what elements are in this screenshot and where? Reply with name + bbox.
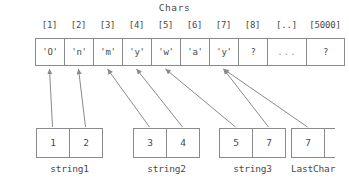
array-cell: ? bbox=[307, 39, 345, 65]
array-index-label: [6] bbox=[180, 18, 209, 32]
variable-LastChar: 7LastChar bbox=[291, 128, 335, 174]
array-index-label: [8] bbox=[238, 18, 267, 32]
chars-array: 'O''n''m''y''w''a''y'?...? bbox=[35, 38, 345, 66]
variable-string1: 12string1 bbox=[36, 128, 103, 174]
variable-label: string2 bbox=[133, 163, 200, 174]
variable-box: 57 bbox=[219, 128, 286, 158]
array-index-label: [7] bbox=[209, 18, 238, 32]
chars-array-diagram: Chars [1][2][3][4][5][6][7][8][..][5000]… bbox=[0, 0, 349, 183]
array-index-label: [1] bbox=[35, 18, 64, 32]
variable-cell: 3 bbox=[134, 129, 167, 157]
array-cell: 'y' bbox=[123, 39, 152, 65]
variable-box: 12 bbox=[36, 128, 103, 158]
variable-cell: 7 bbox=[253, 129, 286, 157]
array-cell: 'm' bbox=[94, 39, 123, 65]
pointer-arrow bbox=[166, 69, 236, 127]
variable-string3: 57string3 bbox=[219, 128, 286, 174]
variable-string2: 34string2 bbox=[133, 128, 200, 174]
array-cell: 'n' bbox=[65, 39, 94, 65]
variable-cell: 4 bbox=[167, 129, 200, 157]
array-index-label: [2] bbox=[64, 18, 93, 32]
variable-cell: 5 bbox=[220, 129, 253, 157]
array-cell: 'w' bbox=[152, 39, 181, 65]
pointer-arrow bbox=[224, 69, 269, 127]
pointer-arrow bbox=[79, 69, 86, 127]
variable-cell: 2 bbox=[70, 129, 103, 157]
variable-box: 7 bbox=[291, 128, 335, 158]
variable-cell: 7 bbox=[292, 129, 325, 157]
pointer-arrow bbox=[224, 69, 308, 127]
array-index-label: [5] bbox=[151, 18, 180, 32]
pointer-arrow bbox=[137, 69, 183, 127]
variable-cell: 1 bbox=[37, 129, 70, 157]
variable-label: LastChar bbox=[291, 163, 335, 174]
pointer-arrow bbox=[108, 69, 150, 127]
array-title: Chars bbox=[0, 2, 349, 13]
array-index-label: [3] bbox=[93, 18, 122, 32]
array-cell: 'a' bbox=[181, 39, 210, 65]
array-cell: 'y' bbox=[210, 39, 239, 65]
pointer-arrow bbox=[50, 69, 53, 127]
array-index-label: [4] bbox=[122, 18, 151, 32]
array-index-label: [..] bbox=[267, 18, 306, 32]
array-index-label: [5000] bbox=[306, 18, 344, 32]
array-cell: 'O' bbox=[36, 39, 65, 65]
array-cell: ? bbox=[239, 39, 268, 65]
array-index-label-row: [1][2][3][4][5][6][7][8][..][5000] bbox=[35, 18, 344, 32]
variable-label: string1 bbox=[36, 163, 103, 174]
array-cell: ... bbox=[268, 39, 307, 65]
variable-label: string3 bbox=[219, 163, 286, 174]
variable-box: 34 bbox=[133, 128, 200, 158]
